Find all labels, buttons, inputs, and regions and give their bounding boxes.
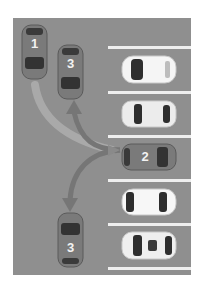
car-3-top: 3 [57, 44, 84, 100]
car-3-bottom: 3 [57, 212, 84, 268]
car-2: 2 [121, 143, 177, 171]
car-number: 3 [57, 56, 84, 71]
parked-car [121, 231, 177, 260]
parked-car [121, 188, 177, 216]
parked-car [121, 55, 177, 84]
parked-car [121, 100, 177, 128]
car-number: 2 [117, 149, 173, 164]
car-1: 1 [21, 24, 48, 80]
car-number: 1 [21, 36, 48, 51]
car-number: 3 [57, 240, 84, 255]
